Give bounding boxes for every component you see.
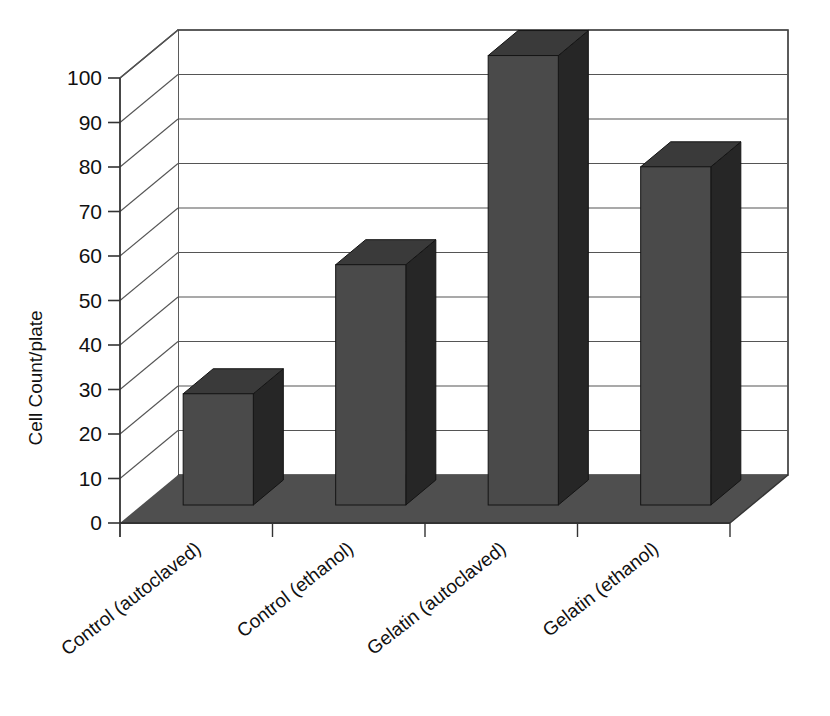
bar-front-face xyxy=(336,265,406,505)
y-axis-tick-label: 50 xyxy=(79,289,102,312)
bar-side-face xyxy=(558,31,588,505)
bar-side-face xyxy=(406,240,436,505)
y-axis-tick-label: 40 xyxy=(79,333,102,356)
bar xyxy=(641,142,741,505)
y-axis-tick-label: 100 xyxy=(67,66,102,89)
bar-chart-3d: 0102030405060708090100 Control (autoclav… xyxy=(0,0,830,716)
y-axis-title-text: Cell Count/plate xyxy=(25,310,46,445)
y-axis-tick-label: 30 xyxy=(79,378,102,401)
y-axis-tick-label: 20 xyxy=(79,422,102,445)
bar-front-face xyxy=(183,394,253,505)
bar-side-face xyxy=(711,142,741,505)
y-axis-tick-label: 10 xyxy=(79,467,102,490)
bar xyxy=(488,31,588,505)
bar xyxy=(183,369,283,505)
chart-container: 0102030405060708090100 Control (autoclav… xyxy=(0,0,830,716)
bar-front-face xyxy=(641,167,711,505)
y-axis-tick-label: 80 xyxy=(79,155,102,178)
y-axis-tick-label: 0 xyxy=(90,511,102,534)
y-axis-title: Cell Count/plate xyxy=(25,310,46,445)
bar xyxy=(336,240,436,505)
y-axis-tick-label: 60 xyxy=(79,244,102,267)
y-axis-tick-label: 90 xyxy=(79,111,102,134)
bar-front-face xyxy=(488,56,558,505)
y-axis-tick-label: 70 xyxy=(79,200,102,223)
